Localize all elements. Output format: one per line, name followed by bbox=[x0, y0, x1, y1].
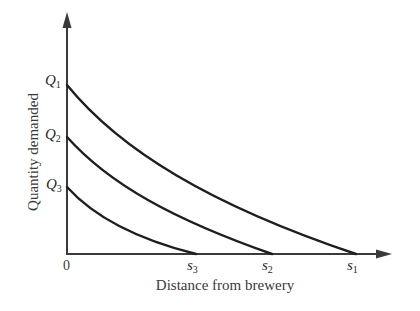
y-axis-title: Quantity demanded bbox=[25, 93, 42, 211]
s3-label: s3 bbox=[187, 258, 198, 275]
x-axis-title: Distance from brewery bbox=[156, 277, 294, 294]
s1-label-sub: 1 bbox=[353, 264, 358, 275]
q2-label: Q2 bbox=[45, 127, 61, 144]
origin-label: 0 bbox=[63, 258, 70, 274]
s3-label-sub: 3 bbox=[193, 264, 198, 275]
s2-label: s2 bbox=[262, 258, 273, 275]
q1-label-main: Q bbox=[45, 72, 56, 88]
q3-label: Q3 bbox=[46, 177, 62, 194]
s2-label-sub: 2 bbox=[268, 264, 273, 275]
demand-curve-2 bbox=[67, 137, 272, 254]
q1-label: Q1 bbox=[45, 73, 61, 90]
q2-label-sub: 2 bbox=[56, 133, 61, 144]
q1-label-sub: 1 bbox=[56, 79, 61, 90]
q3-label-sub: 3 bbox=[57, 183, 62, 194]
s1-label: s1 bbox=[347, 258, 358, 275]
q2-label-main: Q bbox=[45, 126, 56, 142]
demand-curve-3 bbox=[67, 187, 196, 254]
x-axis-arrow-icon bbox=[376, 250, 392, 259]
y-axis-arrow-icon bbox=[63, 12, 72, 28]
q3-label-main: Q bbox=[46, 176, 57, 192]
demand-curve-1 bbox=[67, 85, 356, 254]
